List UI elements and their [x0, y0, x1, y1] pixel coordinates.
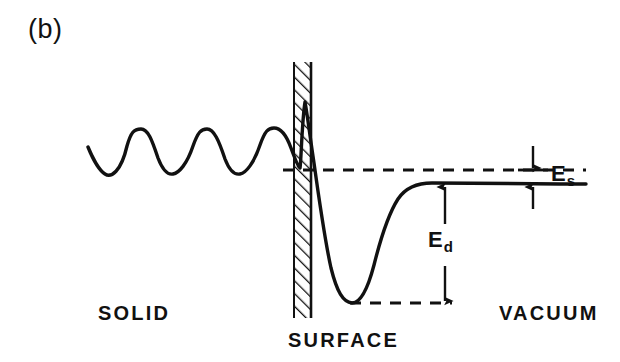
- energy-es-symbol: E: [551, 161, 566, 186]
- potential-energy-curve: [88, 102, 586, 303]
- energy-label-es: Es: [551, 163, 575, 188]
- potential-energy-diagram: (b) SOLID SURFACE VACUUM Es Ed: [0, 0, 620, 362]
- energy-ed-subscript: d: [444, 238, 453, 255]
- energy-es-subscript: s: [567, 172, 575, 189]
- region-label-solid: SOLID: [98, 303, 170, 323]
- energy-ed-symbol: E: [428, 227, 443, 252]
- region-label-vacuum: VACUUM: [499, 303, 599, 323]
- energy-es-annotation: [518, 146, 548, 209]
- energy-label-ed: Ed: [428, 229, 453, 254]
- panel-label: (b): [28, 16, 63, 43]
- surface-hatch-band: [294, 62, 311, 318]
- region-label-surface: SURFACE: [288, 330, 399, 350]
